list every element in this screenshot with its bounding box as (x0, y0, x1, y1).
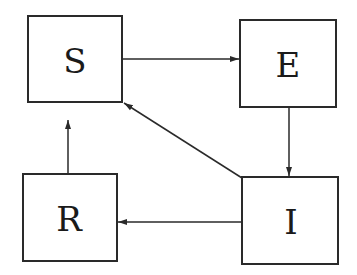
node-r-label: R (56, 199, 83, 239)
node-i: I (242, 177, 338, 264)
node-i-label: I (284, 202, 297, 242)
edge-i-to-s (124, 103, 242, 178)
node-r: R (23, 174, 117, 261)
node-s-label: S (63, 41, 86, 81)
seir-diagram: S E I R (0, 0, 357, 275)
node-s: S (28, 16, 122, 102)
node-e-label: E (276, 45, 301, 85)
node-e: E (240, 20, 336, 107)
